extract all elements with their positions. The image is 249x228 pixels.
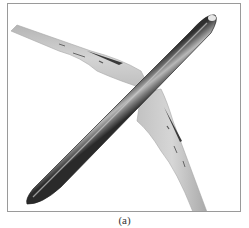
figure-caption: (a) <box>0 213 249 227</box>
right-wing <box>137 89 207 212</box>
nose-tip <box>208 15 216 21</box>
figure: (a) <box>0 0 249 228</box>
aircraft-render <box>7 3 241 212</box>
figure-frame <box>7 3 241 212</box>
left-wing <box>11 25 151 91</box>
